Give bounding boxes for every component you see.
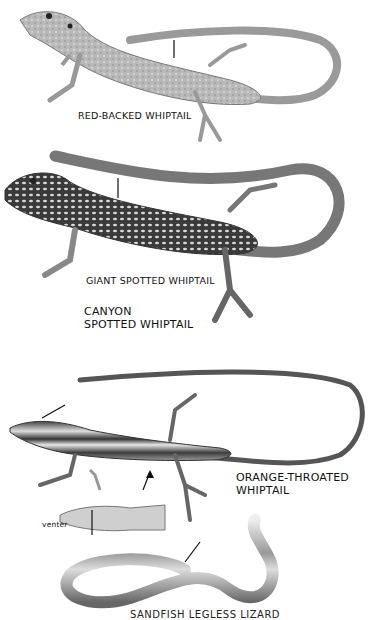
label-giant-spotted-whiptail: GIANT SPOTTED WHIPTAIL	[86, 275, 215, 286]
orange-throated-whiptail-illustration	[10, 372, 362, 520]
label-canyon-line2: SPOTTED WHIPTAIL	[84, 318, 193, 331]
label-orange-throated-whiptail: ORANGE-THROATED WHIPTAIL	[236, 471, 349, 497]
legless-lizard-illustration	[66, 520, 272, 602]
label-venter: venter	[42, 520, 68, 529]
venter-illustration	[60, 470, 165, 535]
label-red-backed-whiptail: RED-BACKED WHIPTAIL	[78, 110, 192, 121]
label-bottom-cut-off: SANDFISH LEGLESS LIZARD	[130, 609, 280, 620]
label-orange-line1: ORANGE-THROATED	[236, 471, 349, 484]
label-canyon-spotted-whiptail: CANYON SPOTTED WHIPTAIL	[84, 305, 193, 331]
label-canyon-line1: CANYON	[84, 305, 193, 318]
label-orange-line2: WHIPTAIL	[236, 484, 349, 497]
spotted-whiptail-illustration	[5, 156, 339, 320]
